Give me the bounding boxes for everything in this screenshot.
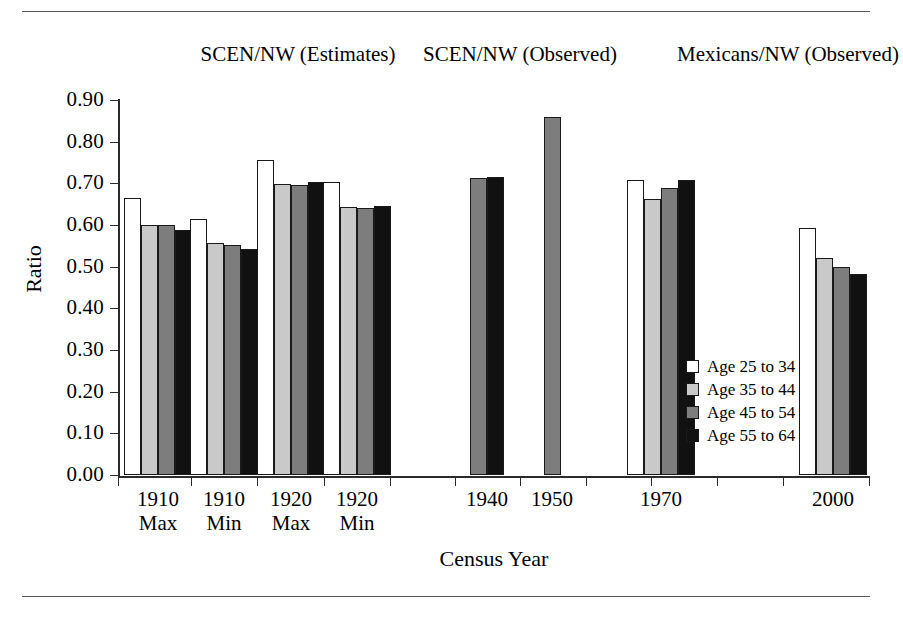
bar: [627, 180, 644, 475]
x-axis-tick: [586, 477, 587, 486]
bar: [124, 198, 141, 475]
x-axis-category-year: 1950: [531, 487, 573, 511]
bar: [291, 185, 308, 475]
legend-swatch-icon: [686, 406, 699, 419]
x-axis-tick: [651, 477, 652, 486]
x-axis-category-year: 1970: [640, 487, 682, 511]
legend-swatch-icon: [686, 360, 699, 373]
legend-item: Age 45 to 54: [686, 401, 866, 424]
x-axis-tick: [717, 477, 718, 486]
x-axis-tick: [390, 477, 391, 486]
bar: [257, 160, 274, 475]
legend-item-label: Age 25 to 34: [707, 358, 795, 375]
bar: [661, 188, 678, 475]
legend-item: Age 25 to 34: [686, 355, 866, 378]
bar: [141, 225, 158, 475]
x-axis-tick: [324, 477, 325, 486]
x-axis-tick: [118, 477, 119, 486]
x-axis-tick: [869, 477, 870, 486]
bar: [241, 249, 258, 475]
bar: [323, 182, 340, 475]
x-axis-tick: [257, 477, 258, 486]
bar: [644, 199, 661, 475]
bar: [544, 117, 561, 475]
bar: [487, 177, 504, 475]
x-axis-category-label: 1950: [492, 487, 612, 511]
legend-swatch-icon: [686, 429, 699, 442]
legend-item-label: Age 35 to 44: [707, 381, 795, 398]
bar: [340, 207, 357, 475]
x-axis-category-label: 1970: [601, 487, 721, 511]
bar: [470, 178, 487, 475]
legend-item: Age 55 to 64: [686, 424, 866, 447]
legend: Age 25 to 34Age 35 to 44Age 45 to 54Age …: [686, 355, 866, 447]
bar: [207, 243, 224, 475]
x-axis-line: [118, 476, 870, 478]
x-axis-tick: [783, 477, 784, 486]
bar: [374, 206, 391, 475]
legend-item: Age 35 to 44: [686, 378, 866, 401]
x-axis-title: Census Year: [118, 546, 870, 572]
x-axis-category-qualifier: Min: [297, 511, 417, 535]
bar: [274, 184, 291, 475]
bar: [224, 245, 241, 475]
legend-item-label: Age 45 to 54: [707, 404, 795, 421]
bar: [158, 225, 175, 475]
legend-swatch-icon: [686, 383, 699, 396]
x-axis-category-label: 1920Min: [297, 487, 417, 535]
x-axis-tick: [455, 477, 456, 486]
x-axis-category-year: 2000: [812, 487, 854, 511]
x-axis-category-label: 2000: [773, 487, 893, 511]
x-axis-tick: [520, 477, 521, 486]
legend-item-label: Age 55 to 64: [707, 427, 795, 444]
x-axis-tick: [191, 477, 192, 486]
bar: [190, 219, 207, 475]
y-axis-title: Ratio: [21, 209, 47, 329]
bar: [357, 208, 374, 475]
x-axis-category-year: 1920: [336, 487, 378, 511]
